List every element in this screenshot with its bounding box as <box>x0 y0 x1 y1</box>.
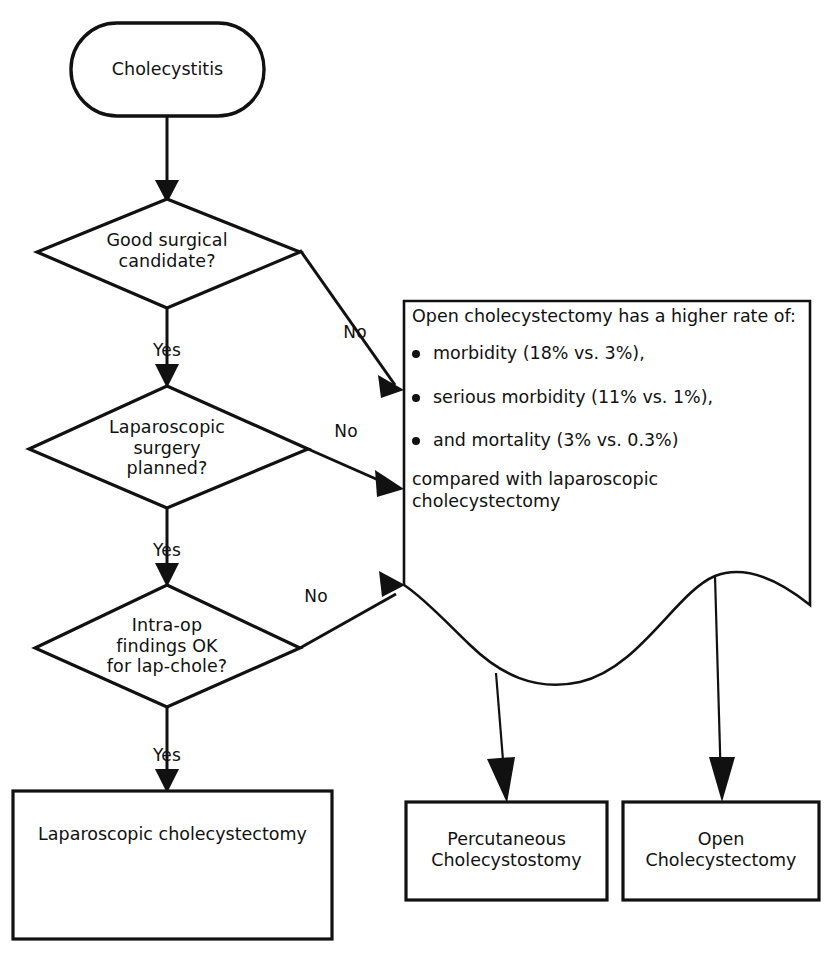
decision-intra-op-findings-shape <box>35 585 300 707</box>
note-bullet-text: morbidity (18% vs. 3%), <box>433 343 645 363</box>
connector-decision3-no <box>300 594 396 648</box>
decision-good-surgical-candidate-shape <box>37 199 300 308</box>
flowchart-canvas: Cholecystitis Good surgical candidate? L… <box>0 0 827 953</box>
result-laparoscopic-cholecystectomy-shape <box>13 791 332 939</box>
note-bullet-text: and mortality (3% vs. 0.3%) <box>433 430 679 450</box>
arrowhead-decision2-no <box>375 470 404 497</box>
bullet-dot-icon <box>412 437 420 445</box>
arrowhead-note-to-open <box>709 757 735 802</box>
result-open-cholecystectomy-shape <box>623 802 819 900</box>
connector-note-to-open <box>715 576 721 785</box>
note-footer: compared with laparoscopic cholecystecto… <box>412 469 806 512</box>
note-bullet-list: morbidity (18% vs. 3%), serious morbidit… <box>412 343 806 451</box>
note-bullet-item: morbidity (18% vs. 3%), <box>412 343 806 364</box>
start-node-shape <box>71 23 264 116</box>
note-callout-content: Open cholecystectomy has a higher rate o… <box>412 306 806 512</box>
bullet-dot-icon <box>412 394 420 402</box>
note-bullet-text: serious morbidity (11% vs. 1%), <box>433 387 713 407</box>
note-bullet-item: serious morbidity (11% vs. 1%), <box>412 387 806 408</box>
arrowhead-decision3-no <box>379 571 405 597</box>
result-percutaneous-cholecystostomy-shape <box>406 802 607 900</box>
decision-laparoscopic-surgery-planned-shape <box>29 386 308 508</box>
arrowhead-note-to-percutaneous <box>487 757 515 803</box>
note-heading: Open cholecystectomy has a higher rate o… <box>412 306 806 327</box>
connector-decision1-no <box>300 250 395 385</box>
bullet-dot-icon <box>412 350 420 358</box>
note-bullet-item: and mortality (3% vs. 0.3%) <box>412 430 806 451</box>
